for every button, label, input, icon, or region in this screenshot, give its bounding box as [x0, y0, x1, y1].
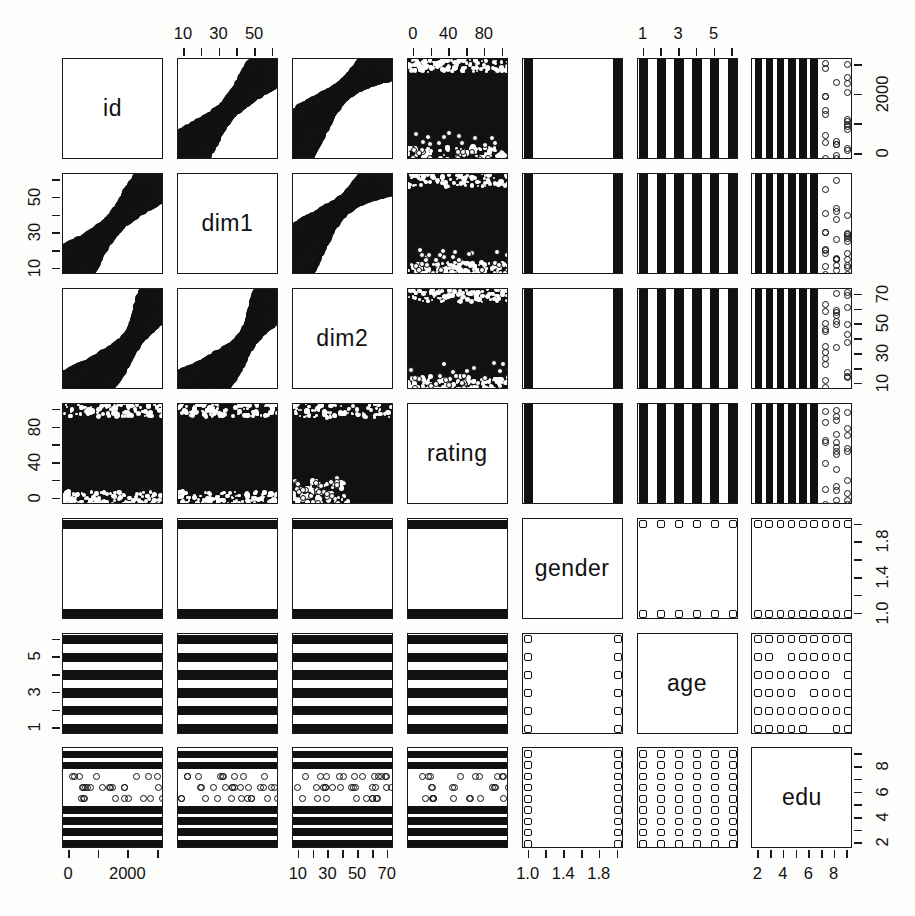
cloud-gap [388, 416, 390, 418]
cloud-gap [135, 492, 139, 496]
cloud-gap [63, 500, 67, 503]
data-point [693, 784, 700, 791]
point-cloud [674, 59, 684, 158]
point-cloud [710, 404, 720, 503]
panel-dim2-vs-edu [751, 288, 852, 389]
cloud-gap [248, 415, 250, 417]
data-point [430, 795, 437, 802]
point-cloud [524, 174, 534, 273]
point-cloud [408, 817, 507, 825]
data-point [657, 806, 664, 813]
tick-mark [313, 850, 315, 858]
data-point [323, 795, 330, 802]
panel-plot-area: dim2 [293, 289, 392, 388]
tick-mark [854, 383, 862, 385]
data-point [524, 707, 531, 714]
data-point [844, 233, 851, 240]
axis-tick-label-gender: 1.8 [873, 530, 892, 553]
cloud-gap [450, 263, 454, 267]
data-point [359, 773, 366, 780]
cloud-gap [178, 405, 180, 407]
cloud-gap [424, 180, 427, 183]
panel-plot-area: dim1 [178, 174, 277, 273]
cloud-gap [243, 404, 246, 406]
data-point [788, 689, 795, 696]
panel-dim1-vs-dim2 [292, 173, 393, 274]
point-cloud [408, 751, 507, 759]
data-point [799, 520, 806, 527]
tick-mark [68, 850, 70, 858]
cloud-gap [423, 179, 425, 181]
data-point [833, 689, 840, 696]
panel-plot-area [178, 634, 277, 733]
panel-id-vs-gender [522, 58, 623, 159]
data-point [833, 262, 840, 269]
tick-mark [854, 524, 862, 526]
data-point [833, 466, 840, 473]
diagonal-label-rating: rating [408, 404, 507, 503]
data-point [777, 671, 784, 678]
data-point [833, 635, 840, 642]
tick-mark [854, 766, 862, 768]
cloud-gap [310, 485, 312, 487]
point-cloud [674, 289, 684, 388]
data-point [524, 689, 531, 696]
data-point [844, 520, 851, 527]
data-point [844, 321, 851, 328]
axis-tick-label-dim1: 10 [25, 259, 44, 277]
tick-mark [127, 850, 129, 858]
tick-mark [854, 753, 862, 755]
tick-mark [254, 48, 256, 56]
panel-plot-area: id [63, 59, 162, 158]
data-point [754, 610, 761, 617]
axis-tick-label-id: 2000 [873, 75, 892, 112]
panel-gender-vs-age [637, 518, 738, 619]
data-point [711, 773, 718, 780]
cloud-gap [466, 174, 469, 177]
point-cloud [63, 653, 162, 663]
data-point [657, 784, 664, 791]
data-point [822, 653, 829, 660]
cloud-gap [476, 70, 478, 72]
data-point [844, 653, 851, 660]
data-point [844, 490, 851, 497]
data-point [433, 381, 439, 387]
cloud-gap [241, 500, 244, 502]
data-point [822, 610, 829, 617]
cloud-gap [470, 385, 472, 387]
tick-mark [854, 804, 862, 806]
data-point [844, 432, 851, 439]
data-point [264, 795, 271, 802]
tick-mark [796, 850, 798, 858]
point-cloud [674, 404, 684, 503]
data-point [844, 610, 851, 617]
axis-tick-label-age: 1 [25, 723, 44, 732]
point-cloud [408, 840, 507, 848]
panel-plot-area [63, 404, 162, 503]
data-point [729, 761, 736, 768]
data-point [675, 750, 682, 757]
data-point [675, 840, 682, 847]
cloud-gap [116, 404, 119, 407]
data-point [788, 635, 795, 642]
panel-edu-vs-dim2 [292, 747, 393, 848]
data-point [822, 271, 829, 273]
panel-id-vs-id: id [62, 58, 163, 159]
data-point [657, 750, 664, 757]
data-point [844, 425, 851, 432]
data-point [833, 216, 840, 223]
tick-mark [413, 48, 415, 56]
cloud-gap [124, 500, 128, 503]
data-point [675, 520, 682, 527]
tick-mark [834, 850, 836, 858]
cloud-gap [475, 180, 479, 184]
data-point [614, 773, 621, 780]
panel-rating-vs-gender [522, 403, 623, 504]
data-point [822, 326, 829, 333]
point-cloud [260, 289, 277, 306]
panel-edu-vs-age [637, 747, 738, 848]
point-cloud [799, 404, 807, 503]
diagonal-label-dim1: dim1 [178, 174, 277, 273]
tick-mark [327, 850, 329, 858]
tick-mark [466, 48, 468, 56]
